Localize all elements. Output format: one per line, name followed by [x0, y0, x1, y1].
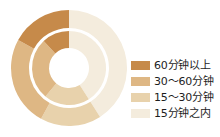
inner-ring	[32, 31, 106, 105]
legend-item-15-to-30[interactable]: 15～30分钟	[131, 90, 217, 105]
outer-ring-segment-2[interactable]	[41, 102, 100, 126]
legend-swatch-within-15	[131, 109, 150, 118]
legend-label-30-to-60: 30～60分钟	[154, 76, 214, 88]
nested-donut-chart	[9, 3, 131, 134]
legend-label-15-to-30: 15～30分钟	[154, 92, 214, 104]
legend-item-within-15[interactable]: 15分钟之内	[131, 106, 217, 121]
outer-ring	[11, 10, 127, 126]
donut-svg	[9, 3, 131, 134]
legend-swatch-60-plus	[131, 61, 150, 70]
chart-legend: 60分钟以上 30～60分钟 15～30分钟 15分钟之内	[131, 58, 217, 121]
legend-item-30-to-60[interactable]: 30～60分钟	[131, 74, 217, 89]
legend-item-60-plus[interactable]: 60分钟以上	[131, 58, 217, 73]
legend-swatch-30-to-60	[131, 77, 150, 86]
legend-label-60-plus: 60分钟以上	[154, 60, 211, 72]
legend-swatch-15-to-30	[131, 93, 150, 102]
chart-container: 60分钟以上 30～60分钟 15～30分钟 15分钟之内	[0, 0, 220, 137]
legend-label-within-15: 15分钟之内	[154, 108, 211, 120]
